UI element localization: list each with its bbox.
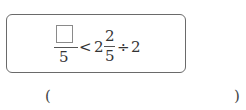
fraction1-denominator: 5 xyxy=(59,50,69,65)
divisor: 2 xyxy=(131,40,141,55)
answer-field[interactable] xyxy=(55,88,230,106)
mixed-numerator: 2 xyxy=(105,29,115,44)
divide-sign: ÷ xyxy=(117,40,130,55)
mixed-whole: 2 xyxy=(94,40,104,55)
blank-square-icon[interactable] xyxy=(56,25,73,43)
less-than-sign: < xyxy=(79,40,92,55)
answer-close-paren: ) xyxy=(234,89,240,104)
answer-open-paren: ( xyxy=(45,89,51,104)
mixed-denominator: 5 xyxy=(105,49,115,64)
